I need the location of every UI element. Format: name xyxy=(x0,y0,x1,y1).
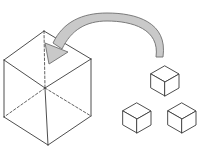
curved-transform-arrow xyxy=(45,13,164,64)
hidden-edge-to-right-lower xyxy=(45,88,91,116)
edge-right-upper-to-center xyxy=(45,59,91,88)
edge-left-upper-to-center xyxy=(4,60,45,88)
arrow-head xyxy=(45,43,68,64)
edge-right-lower-to-bottom xyxy=(48,116,91,145)
arrow-ribbon-body xyxy=(53,13,164,57)
hidden-edge-vertical xyxy=(44,31,45,88)
small-cube-lower-right xyxy=(168,103,196,133)
diagram-canvas: Cube decomposition diagram xyxy=(0,0,201,150)
cube-decomposition-illustration xyxy=(0,0,201,150)
small-cube-lower-middle xyxy=(123,103,151,133)
hidden-edge-to-left-lower xyxy=(4,88,45,117)
edge-top-to-left-upper xyxy=(4,31,44,60)
edge-center-vertical-front xyxy=(45,88,48,145)
edge-left-lower-to-bottom xyxy=(4,117,48,145)
small-cube-upper-right xyxy=(151,66,179,96)
